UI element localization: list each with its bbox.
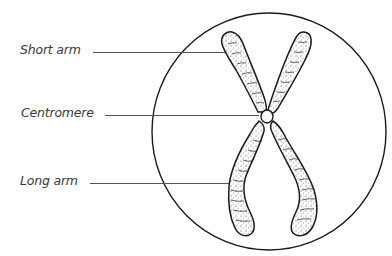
lower-left-chromatid	[229, 121, 265, 236]
chromosome	[222, 32, 317, 236]
centromere-circle	[261, 110, 273, 123]
long-arm-label: Long arm	[20, 175, 78, 188]
chromosome-illustration	[0, 0, 392, 256]
chromosome-diagram: Short arm Centromere Long arm	[0, 0, 392, 256]
centromere-label: Centromere	[21, 107, 94, 120]
cell-boundary-circle	[152, 13, 386, 250]
short-arm-label: Short arm	[20, 44, 81, 57]
